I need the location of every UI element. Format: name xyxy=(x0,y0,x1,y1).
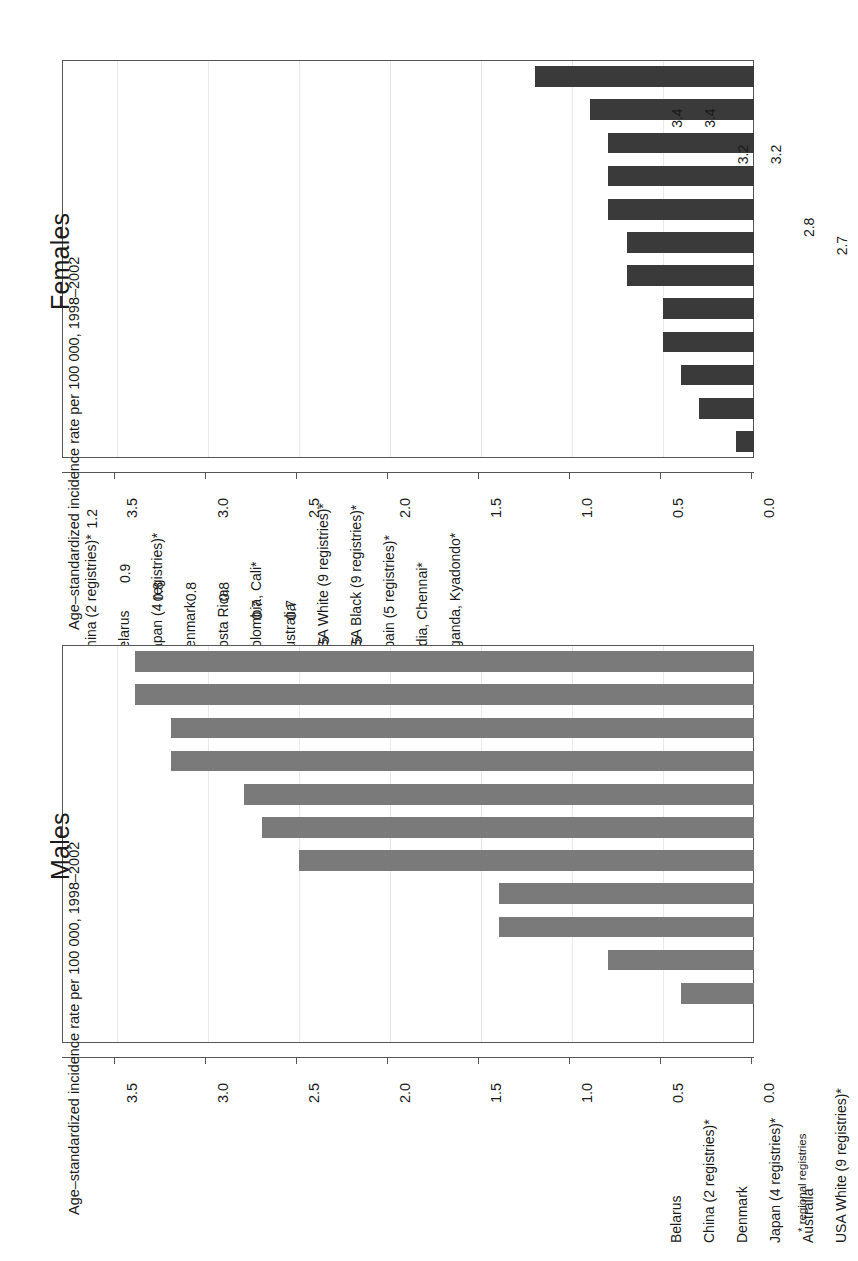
axis-tick xyxy=(205,472,206,479)
axis-tick xyxy=(114,472,115,479)
bar-value-label: 0.9 xyxy=(117,564,133,583)
category-label: Belarus xyxy=(668,1196,684,1243)
axis-tick xyxy=(660,1057,661,1064)
bar xyxy=(663,298,754,319)
bar-value-label: 2.8 xyxy=(801,218,817,237)
bar xyxy=(171,751,754,772)
category-label: China (2 registries)* xyxy=(701,1119,717,1243)
bar xyxy=(699,398,754,419)
gridline xyxy=(572,646,573,1042)
gridline xyxy=(117,646,118,1042)
bar xyxy=(736,431,754,452)
bar xyxy=(499,883,754,904)
axis-tick xyxy=(387,472,388,479)
bar xyxy=(262,817,754,838)
bar xyxy=(608,199,754,220)
axis-tick xyxy=(569,1057,570,1064)
bar-value-label: 2.7 xyxy=(834,236,850,255)
axis-tick-label: 0.5 xyxy=(670,498,686,518)
axis-tick xyxy=(296,1057,297,1064)
gridline xyxy=(208,646,209,1042)
bar-value-label: 1.2 xyxy=(84,509,100,528)
bar-value-label: 3.2 xyxy=(768,145,784,164)
gridline xyxy=(299,61,300,457)
category-label: Denmark xyxy=(734,1186,750,1243)
bar xyxy=(627,232,754,253)
axis-tick-label: 0.0 xyxy=(761,1083,777,1103)
axis-tick-label: 3.5 xyxy=(124,1083,140,1103)
bar xyxy=(299,850,754,871)
category-label: Japan (4 registries)* xyxy=(767,1118,783,1243)
gridline xyxy=(663,646,664,1042)
axis-title: Age–standardized incidence rate per 100 … xyxy=(66,842,82,1215)
axis-tick-label: 3.0 xyxy=(215,498,231,518)
axis-tick-label: 1.0 xyxy=(579,498,595,518)
gridline xyxy=(390,646,391,1042)
axis-tick xyxy=(660,472,661,479)
axis-tick-label: 3.0 xyxy=(215,1083,231,1103)
category-label: India, Chennai* xyxy=(414,562,430,658)
axis-tick xyxy=(114,1057,115,1064)
gridline xyxy=(208,61,209,457)
category-label: Japan (4 registries)* xyxy=(149,533,165,658)
axis-tick xyxy=(205,1057,206,1064)
axis-tick-label: 0.0 xyxy=(761,498,777,518)
axis-tick xyxy=(569,472,570,479)
bar-value-label: 0.8 xyxy=(183,582,199,601)
category-label: China (2 registries)* xyxy=(83,534,99,658)
category-label: USA White (9 registries)* xyxy=(833,1088,849,1243)
bar xyxy=(135,651,754,672)
category-label: Colombia, Cali* xyxy=(248,562,264,658)
category-label: USA White (9 registries)* xyxy=(315,503,331,658)
axis-tick-label: 3.5 xyxy=(124,498,140,518)
axis-title: Age–standardized incidence rate per 100 … xyxy=(66,257,82,630)
gridline xyxy=(117,61,118,457)
gridline xyxy=(390,61,391,457)
axis-tick xyxy=(387,1057,388,1064)
incidence-rate-figure: 0.00.51.01.52.02.53.03.5Age–standardized… xyxy=(0,0,858,1261)
axis-tick-label: 2.5 xyxy=(306,1083,322,1103)
bar xyxy=(535,66,754,87)
category-label: Uganda, Kyadondo* xyxy=(447,533,463,658)
axis-tick-label: 2.0 xyxy=(397,1083,413,1103)
bar-value-label: 3.2 xyxy=(735,145,751,164)
gridline xyxy=(299,646,300,1042)
axis-tick xyxy=(296,472,297,479)
axis-tick-label: 1.0 xyxy=(579,1083,595,1103)
gridline xyxy=(572,61,573,457)
category-label: USA Black (9 registries)* xyxy=(348,505,364,658)
axis-tick xyxy=(751,1057,752,1064)
bar-value-label: 3.4 xyxy=(702,108,718,127)
bar xyxy=(681,983,754,1004)
axis-tick-label: 1.5 xyxy=(488,1083,504,1103)
axis-tick xyxy=(478,1057,479,1064)
bar xyxy=(608,950,754,971)
category-label: Spain (5 registries)* xyxy=(381,535,397,658)
bar xyxy=(627,265,754,286)
gridline xyxy=(481,61,482,457)
bar xyxy=(171,718,754,739)
footnote: * regional registries xyxy=(796,1134,808,1232)
bar xyxy=(681,365,754,386)
value-axis-line xyxy=(62,1057,754,1058)
axis-tick xyxy=(751,472,752,479)
axis-tick-label: 1.5 xyxy=(488,498,504,518)
bar xyxy=(608,133,754,154)
panel-title: Females xyxy=(46,213,75,310)
bar xyxy=(663,332,754,353)
gridline xyxy=(481,646,482,1042)
bar xyxy=(135,684,754,705)
bar xyxy=(608,166,754,187)
value-axis-line xyxy=(62,472,754,473)
axis-tick xyxy=(478,472,479,479)
axis-tick-label: 0.5 xyxy=(670,1083,686,1103)
bar xyxy=(499,917,754,938)
axis-tick-label: 2.0 xyxy=(397,498,413,518)
panel-title: Males xyxy=(46,812,75,880)
gridline xyxy=(663,61,664,457)
bar xyxy=(244,784,754,805)
bar-value-label: 3.4 xyxy=(669,108,685,127)
